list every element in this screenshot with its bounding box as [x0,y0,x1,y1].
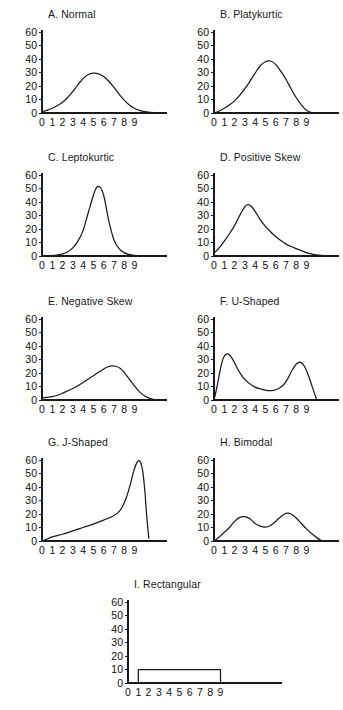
y-tick-label: 50 [197,467,209,479]
x-tick-label: 9 [304,259,310,271]
x-tick-label: 3 [70,259,76,271]
y-tick-label: 40 [197,340,209,352]
plot-area-f-u-shaped: 60504030201000123456789 [172,287,343,427]
rectangle-outline [138,670,220,684]
x-tick-label: 7 [197,686,203,698]
x-tick-label: 6 [101,544,107,556]
x-tick-label: 3 [70,544,76,556]
x-tick-label: 2 [232,259,238,271]
plot-area-d-positive-skew: 60504030201000123456789 [172,143,343,283]
x-tick-label: 7 [111,403,117,415]
x-tick-label: 6 [273,403,279,415]
y-tick-label: 30 [197,209,209,221]
distribution-curve [214,61,317,113]
x-tick-label: 1 [221,259,227,271]
x-tick-label: 5 [262,544,268,556]
y-tick-label: 60 [25,26,37,38]
y-tick-label: 10 [25,380,37,392]
x-tick-label: 6 [187,686,193,698]
x-tick-label: 0 [125,686,131,698]
y-tick-label: 20 [197,80,209,92]
distribution-curve [214,513,322,541]
x-tick-label: 5 [90,259,96,271]
y-tick-label: 10 [197,236,209,248]
x-tick-label: 1 [221,544,227,556]
x-tick-label: 5 [262,116,268,128]
distribution-curve [42,186,155,256]
y-tick-label: 60 [111,596,123,608]
y-tick-label: 30 [111,636,123,648]
x-tick-label: 2 [232,403,238,415]
plot-area-g-j-shaped: 60504030201000123456789 [0,428,171,568]
panel-h-bimodal: H. Bimodal60504030201000123456789 [172,428,343,568]
y-tick-label: 40 [25,196,37,208]
panel-c-leptokurtic: C. Leptokurtic60504030201000123456789 [0,143,171,283]
y-tick-label: 20 [111,650,123,662]
x-tick-label: 8 [293,544,299,556]
x-tick-label: 9 [132,259,138,271]
x-tick-label: 0 [39,403,45,415]
y-tick-label: 60 [197,26,209,38]
y-tick-label: 50 [197,326,209,338]
y-tick-label: 20 [25,80,37,92]
y-tick-label: 40 [111,623,123,635]
y-tick-label: 60 [197,313,209,325]
x-tick-label: 4 [252,544,258,556]
y-tick-label: 0 [31,535,37,547]
y-tick-label: 30 [25,494,37,506]
x-tick-label: 1 [221,116,227,128]
x-tick-label: 8 [121,544,127,556]
x-tick-label: 5 [90,544,96,556]
x-tick-label: 7 [283,116,289,128]
x-tick-label: 8 [121,116,127,128]
plot-area-i-rectangular: 60504030201000123456789 [86,570,286,710]
x-tick-label: 1 [221,403,227,415]
y-tick-label: 20 [25,367,37,379]
x-tick-label: 4 [80,116,86,128]
x-tick-label: 7 [283,403,289,415]
x-tick-label: 2 [60,116,66,128]
y-tick-label: 0 [31,107,37,119]
x-tick-label: 2 [232,544,238,556]
y-tick-label: 0 [31,394,37,406]
x-tick-label: 7 [283,544,289,556]
y-tick-label: 0 [31,250,37,262]
panel-b-platykurtic: B. Platykurtic60504030201000123456789 [172,0,343,140]
x-tick-label: 1 [49,544,55,556]
y-tick-label: 50 [111,609,123,621]
y-tick-label: 0 [203,394,209,406]
x-tick-label: 9 [218,686,224,698]
x-tick-label: 4 [80,544,86,556]
y-tick-label: 60 [25,313,37,325]
x-tick-label: 0 [39,544,45,556]
x-tick-label: 3 [242,116,248,128]
y-tick-label: 60 [197,454,209,466]
y-tick-label: 10 [197,93,209,105]
y-tick-label: 60 [25,454,37,466]
x-tick-label: 8 [293,116,299,128]
y-tick-label: 10 [197,521,209,533]
x-tick-label: 6 [273,544,279,556]
x-tick-label: 6 [273,116,279,128]
y-tick-label: 60 [25,169,37,181]
x-tick-label: 2 [60,259,66,271]
y-tick-label: 30 [197,66,209,78]
x-tick-label: 0 [211,403,217,415]
y-tick-label: 50 [197,39,209,51]
y-tick-label: 30 [25,353,37,365]
x-tick-label: 5 [262,403,268,415]
y-tick-label: 20 [197,223,209,235]
x-tick-label: 2 [146,686,152,698]
y-tick-label: 50 [25,467,37,479]
plot-area-b-platykurtic: 60504030201000123456789 [172,0,343,140]
x-tick-label: 0 [39,259,45,271]
panel-f-u-shaped: F. U-Shaped60504030201000123456789 [172,287,343,427]
y-tick-label: 40 [25,481,37,493]
distribution-curve [42,366,155,400]
x-tick-label: 9 [304,116,310,128]
x-tick-label: 4 [252,403,258,415]
x-tick-label: 1 [49,116,55,128]
x-tick-label: 6 [101,116,107,128]
x-tick-label: 4 [80,403,86,415]
distribution-shapes-figure: A. Normal60504030201000123456789B. Platy… [0,0,343,710]
